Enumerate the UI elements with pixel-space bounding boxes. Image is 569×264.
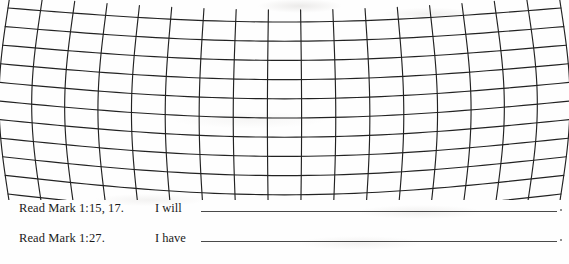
grid-vertical-line (199, 9, 204, 200)
answer-stem: I have (155, 231, 201, 246)
exercise-rows: Read Mark 1:15, 17. I will Read Mark 1:2… (0, 198, 569, 258)
grid-horizontal-line (3, 157, 567, 176)
grid-vertical-line (559, 0, 569, 200)
grid-horizontal-line (1, 64, 569, 80)
grid-vertical-line (0, 0, 10, 200)
answer-blank-line[interactable] (201, 228, 557, 242)
answer-stem: I will (155, 201, 201, 216)
grid-vertical-line (462, 4, 471, 200)
grid-horizontal-line (0, 101, 569, 118)
grid-vertical-line (301, 10, 302, 200)
exercise-row: Read Mark 1:27. I have (0, 228, 569, 258)
grid-horizontal-line (1, 138, 569, 156)
grid-horizontal-line (0, 120, 569, 138)
scripture-reference: Read Mark 1:27. (0, 231, 155, 246)
grid-horizontal-line (5, 175, 564, 194)
grid-horizontal-line (3, 45, 567, 60)
grid-vertical-line (98, 4, 107, 200)
exercise-row: Read Mark 1:15, 17. I will (0, 198, 569, 228)
answer-blank-line[interactable] (201, 198, 557, 212)
line-end-speck (560, 239, 562, 241)
scripture-reference: Read Mark 1:15, 17. (0, 201, 155, 216)
grid-horizontal-line (5, 27, 564, 42)
distorted-grid-figure (0, 0, 569, 200)
grid-horizontal-line (8, 8, 561, 22)
grid-horizontal-line (0, 82, 569, 98)
grid-vertical-line (233, 9, 236, 200)
line-end-speck (560, 209, 562, 211)
scanned-page: Read Mark 1:15, 17. I will Read Mark 1:2… (0, 0, 569, 264)
grid-mesh-svg (0, 0, 569, 200)
grid-vertical-line (333, 9, 336, 200)
grid-vertical-line (165, 7, 171, 200)
grid-vertical-line (430, 6, 438, 200)
grid-vertical-line (267, 10, 268, 200)
grid-vertical-line (365, 9, 370, 200)
grid-vertical-line (131, 6, 139, 200)
grid-vertical-line (397, 7, 403, 200)
